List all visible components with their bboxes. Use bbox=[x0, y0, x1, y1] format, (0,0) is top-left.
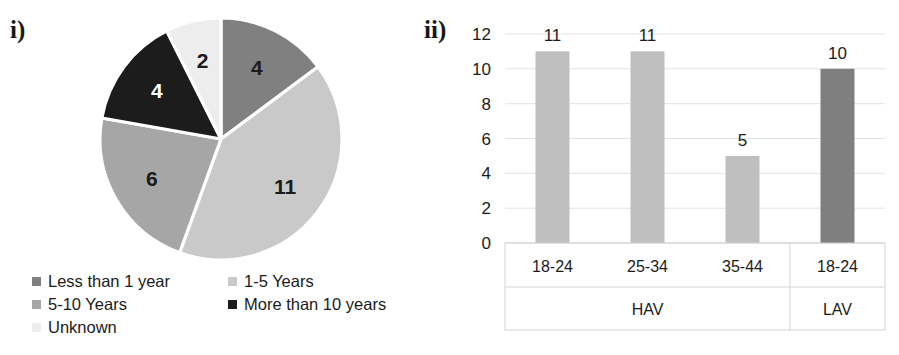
legend-label: 5-10 Years bbox=[48, 296, 127, 313]
pie-slice-value-label: 11 bbox=[274, 175, 297, 198]
x-axis-category-label: 18-24 bbox=[532, 258, 573, 275]
legend-swatch-icon bbox=[32, 300, 41, 309]
bar-group-labels: HAVLAV bbox=[632, 301, 853, 318]
bar-value-label: 5 bbox=[738, 131, 747, 150]
legend-label: Less than 1 year bbox=[48, 273, 170, 290]
x-axis-category-label: 18-24 bbox=[817, 258, 858, 275]
y-axis-tick-label: 6 bbox=[482, 130, 491, 149]
pie-slice-value-label: 6 bbox=[146, 167, 158, 190]
y-axis-tick-label: 4 bbox=[482, 164, 491, 183]
pie-slice-value-label: 2 bbox=[197, 49, 209, 72]
bar-y-axis-ticks: 024681012 bbox=[472, 25, 491, 253]
y-axis-tick-label: 12 bbox=[472, 25, 491, 44]
pie-slice-value-label: 4 bbox=[151, 79, 163, 102]
bar bbox=[536, 51, 570, 243]
legend-item[interactable]: More than 10 years bbox=[228, 293, 432, 316]
y-axis-tick-label: 2 bbox=[482, 199, 491, 218]
legend-item[interactable]: 1-5 Years bbox=[228, 270, 432, 293]
bar-series bbox=[536, 51, 855, 243]
bar-chart: 024681012 1111510 18-2425-3435-4418-24 H… bbox=[430, 0, 899, 355]
bar bbox=[726, 156, 760, 243]
bar-value-label: 11 bbox=[544, 26, 562, 45]
y-axis-tick-label: 8 bbox=[482, 95, 491, 114]
legend-swatch-icon bbox=[228, 277, 237, 286]
figure-container: i) ii) 411642 Less than 1 year1-5 Years5… bbox=[0, 0, 899, 355]
y-axis-tick-label: 0 bbox=[482, 234, 491, 253]
pie-legend: Less than 1 year1-5 Years5-10 YearsMore … bbox=[32, 270, 432, 339]
y-axis-tick-label: 10 bbox=[472, 60, 491, 79]
pie-chart-panel: 411642 Less than 1 year1-5 Years5-10 Yea… bbox=[0, 0, 430, 355]
legend-item[interactable]: 5-10 Years bbox=[32, 293, 228, 316]
bar-chart-panel: 024681012 1111510 18-2425-3435-4418-24 H… bbox=[430, 0, 899, 355]
bar bbox=[821, 69, 855, 243]
legend-label: 1-5 Years bbox=[244, 273, 314, 290]
bar-value-label: 11 bbox=[639, 26, 657, 45]
x-axis-category-label: 35-44 bbox=[722, 258, 763, 275]
pie-chart: 411642 bbox=[98, 16, 344, 262]
legend-swatch-icon bbox=[228, 300, 237, 309]
bar bbox=[631, 51, 665, 243]
legend-swatch-icon bbox=[32, 323, 41, 332]
legend-swatch-icon bbox=[32, 277, 41, 286]
legend-label: Unknown bbox=[48, 319, 117, 336]
legend-label: More than 10 years bbox=[244, 296, 386, 313]
bar-value-label: 10 bbox=[828, 44, 847, 63]
x-axis-category-label: 25-34 bbox=[627, 258, 668, 275]
legend-item[interactable]: Less than 1 year bbox=[32, 270, 228, 293]
pie-slices bbox=[100, 18, 342, 260]
bar-category-labels: 18-2425-3435-4418-24 bbox=[532, 258, 858, 275]
bar-value-labels: 1111510 bbox=[544, 26, 847, 149]
legend-item[interactable]: Unknown bbox=[32, 316, 228, 339]
pie-slice-value-label: 4 bbox=[251, 56, 263, 79]
x-axis-group-label: LAV bbox=[823, 301, 852, 318]
x-axis-group-label: HAV bbox=[632, 301, 664, 318]
